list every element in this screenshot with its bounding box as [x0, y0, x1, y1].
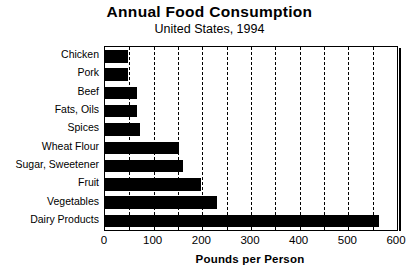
- bar-row: [105, 120, 397, 138]
- y-axis-category-labels: ChickenPorkBeefFats, OilsSpicesWheat Flo…: [0, 46, 99, 229]
- category-label-pork: Pork: [0, 67, 99, 78]
- x-axis-tick-labels: 0100200300400500600: [0, 233, 419, 249]
- x-tick-label-200: 200: [192, 233, 211, 247]
- category-label-wheat-flour: Wheat Flour: [0, 141, 99, 152]
- bar-row: [105, 84, 397, 102]
- category-label-vegetables: Vegetables: [0, 196, 99, 207]
- category-label-beef: Beef: [0, 86, 99, 97]
- bar-row: [105, 102, 397, 120]
- x-tick-label-500: 500: [338, 233, 357, 247]
- bars-layer: [105, 47, 397, 230]
- x-axis-label: Pounds per Person: [104, 252, 396, 266]
- bar-dairy-products: [105, 215, 379, 228]
- bar-beef: [105, 87, 137, 100]
- bar-pork: [105, 68, 128, 81]
- bar-row: [105, 193, 397, 211]
- bar-sugar-sweetener: [105, 160, 183, 173]
- bar-row: [105, 157, 397, 175]
- x-tick-label-600: 600: [386, 233, 405, 247]
- category-label-sugar-sweetener: Sugar, Sweetener: [0, 159, 99, 170]
- annual-food-consumption-chart: Annual Food Consumption United States, 1…: [0, 0, 419, 279]
- category-label-spices: Spices: [0, 122, 99, 133]
- bar-vegetables: [105, 196, 217, 209]
- bar-row: [105, 139, 397, 157]
- plot-area: [104, 46, 398, 231]
- bar-wheat-flour: [105, 142, 179, 155]
- chart-title: Annual Food Consumption: [0, 3, 419, 21]
- bar-row: [105, 47, 397, 65]
- bar-fruit: [105, 178, 201, 191]
- bar-row: [105, 175, 397, 193]
- category-label-chicken: Chicken: [0, 49, 99, 60]
- category-label-dairy-products: Dairy Products: [0, 214, 99, 225]
- category-label-fruit: Fruit: [0, 177, 99, 188]
- bar-fats-oils: [105, 105, 137, 118]
- category-label-fats-oils: Fats, Oils: [0, 104, 99, 115]
- bar-spices: [105, 123, 140, 136]
- x-tick-label-100: 100: [143, 233, 162, 247]
- bar-chicken: [105, 50, 128, 63]
- bar-row: [105, 212, 397, 230]
- chart-subtitle: United States, 1994: [0, 22, 419, 37]
- bar-row: [105, 65, 397, 83]
- x-tick-label-300: 300: [240, 233, 259, 247]
- x-tick-label-0: 0: [101, 233, 107, 247]
- x-tick-label-400: 400: [289, 233, 308, 247]
